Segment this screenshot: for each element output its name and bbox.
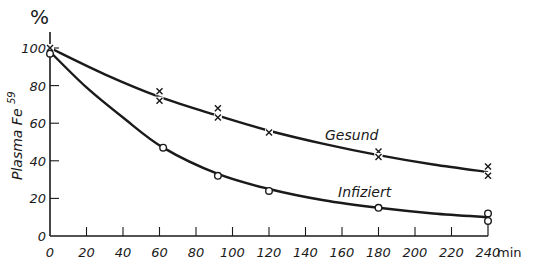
x-tick-label: 120 (257, 245, 282, 260)
y-axis-title-superscript: 59 (6, 91, 17, 104)
y-tick-label: 0 (38, 229, 46, 244)
x-tick-label: 180 (366, 245, 391, 260)
x-tick-label: 0 (46, 245, 54, 260)
o-marker (160, 144, 167, 151)
o-marker (266, 188, 273, 195)
plasma-fe59-chart: 0204060801001201401601802002202400204060… (0, 0, 535, 270)
y-tick-label: 40 (29, 154, 46, 169)
markers (46, 44, 492, 224)
x-tick-label: 220 (439, 245, 464, 260)
axes: 0204060801001201401601802002202400204060… (21, 32, 500, 260)
x-tick-label: 100 (220, 245, 245, 260)
x-tick-label: 20 (78, 245, 95, 260)
o-marker (485, 218, 492, 225)
x-marker (214, 114, 222, 122)
y-tick-label: 60 (29, 116, 46, 131)
x-tick-label: 160 (330, 245, 355, 260)
o-marker (215, 173, 222, 180)
x-tick-label: 40 (115, 245, 132, 260)
x-marker (484, 172, 492, 180)
x-marker (265, 129, 273, 137)
series-label-infiziert: Infiziert (338, 184, 392, 200)
series-label-gesund: Gesund (325, 127, 379, 143)
o-marker (47, 50, 54, 57)
x-marker (484, 162, 492, 170)
x-marker (156, 97, 164, 105)
x-marker (375, 153, 383, 161)
x-tick-label: 200 (403, 245, 428, 260)
x-tick-label: 140 (293, 245, 318, 260)
o-marker (485, 210, 492, 217)
y-axis-title-main: Plasma Fe (9, 108, 25, 180)
y-tick-label: 20 (29, 191, 46, 206)
y-tick-label: 80 (29, 79, 46, 94)
y-axis-title: Plasma Fe 59 (6, 91, 25, 180)
x-tick-label: 80 (188, 245, 205, 260)
x-tick-label: 60 (151, 245, 168, 260)
x-marker (156, 87, 164, 95)
y-unit-label: % (30, 5, 49, 29)
y-tick-label: 100 (21, 41, 46, 56)
o-marker (375, 205, 382, 212)
curve-gesund (50, 48, 488, 172)
x-axis-unit: min (497, 245, 522, 260)
x-marker (214, 104, 222, 112)
